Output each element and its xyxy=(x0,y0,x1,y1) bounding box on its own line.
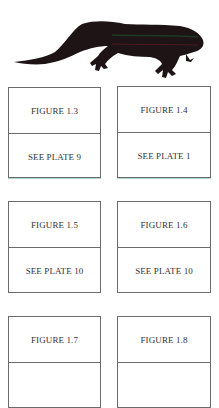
figure-label: FIGURE 1.4 xyxy=(118,87,210,132)
figure-placeholder-1-8: FIGURE 1.8 xyxy=(117,316,211,408)
plate-reference: SEE PLATE 10 xyxy=(9,247,100,293)
figure-label: FIGURE 1.5 xyxy=(9,202,100,247)
lizard-silhouette-icon xyxy=(0,0,219,82)
plate-reference: SEE PLATE 10 xyxy=(118,247,210,293)
lizard-silhouette xyxy=(0,0,219,82)
figure-label: FIGURE 1.6 xyxy=(118,202,210,247)
box-edge-tint xyxy=(8,178,101,179)
figure-placeholder-1-5: FIGURE 1.5 SEE PLATE 10 xyxy=(8,201,101,293)
figure-placeholder-1-3: FIGURE 1.3 SEE PLATE 9 xyxy=(8,87,101,178)
figure-label: FIGURE 1.7 xyxy=(9,317,100,362)
figure-label: FIGURE 1.8 xyxy=(118,317,210,362)
plate-reference: SEE PLATE 1 xyxy=(118,132,210,178)
figure-placeholder-1-4: FIGURE 1.4 SEE PLATE 1 xyxy=(117,86,211,178)
plate-reference: SEE PLATE 9 xyxy=(9,133,100,179)
plate-reference xyxy=(118,362,210,408)
figure-placeholder-1-6: FIGURE 1.6 SEE PLATE 10 xyxy=(117,201,211,293)
figure-label: FIGURE 1.3 xyxy=(9,88,100,133)
plate-reference xyxy=(9,362,100,408)
box-edge-tint xyxy=(117,178,211,179)
figure-placeholder-1-7: FIGURE 1.7 xyxy=(8,316,101,408)
